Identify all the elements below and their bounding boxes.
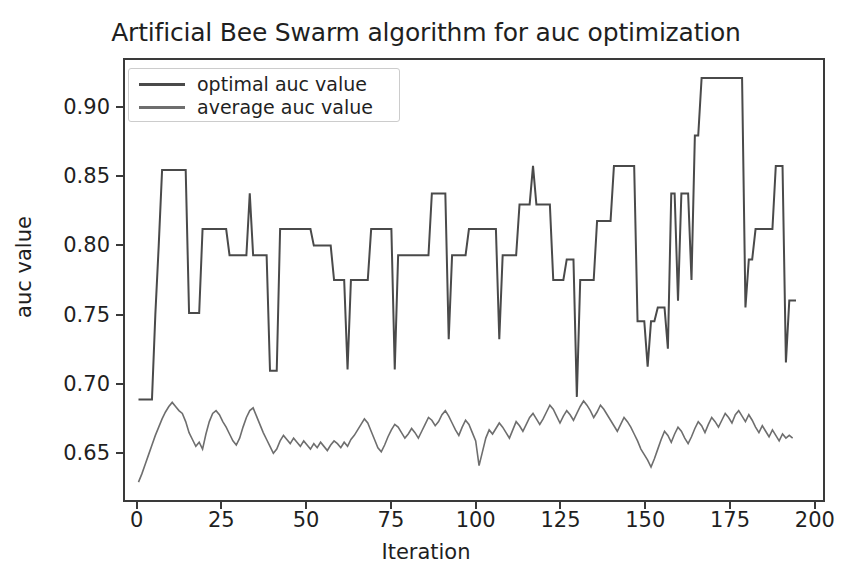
x-tick-label: 50 xyxy=(293,508,320,532)
y-tick-label: 0.70 xyxy=(63,372,110,396)
x-tick-label: 100 xyxy=(456,508,496,532)
legend-item-optimal: optimal auc value xyxy=(139,73,391,96)
x-tick-mark xyxy=(559,501,561,509)
x-tick-mark xyxy=(136,501,138,509)
y-tick-label: 0.85 xyxy=(63,164,110,188)
x-tick-label: 200 xyxy=(795,508,835,532)
chart-legend: optimal auc value average auc value xyxy=(128,68,400,122)
x-tick-mark xyxy=(220,501,222,509)
legend-swatch-average xyxy=(139,106,185,109)
y-tick-label: 0.65 xyxy=(63,441,110,465)
x-axis-label: Iteration xyxy=(0,540,852,564)
legend-item-average: average auc value xyxy=(139,96,391,119)
x-tick-mark xyxy=(390,501,392,509)
x-tick-label: 150 xyxy=(625,508,665,532)
chart-title: Artificial Bee Swarm algorithm for auc o… xyxy=(0,18,852,47)
chart-figure: Artificial Bee Swarm algorithm for auc o… xyxy=(0,0,852,585)
legend-label-optimal: optimal auc value xyxy=(197,74,367,95)
y-axis-tick-labels: 0.650.700.750.800.850.90 xyxy=(0,0,110,585)
series-line xyxy=(138,78,796,400)
x-tick-label: 175 xyxy=(710,508,750,532)
y-tick-label: 0.80 xyxy=(63,233,110,257)
series-line xyxy=(138,401,792,482)
x-tick-mark xyxy=(475,501,477,509)
legend-swatch-optimal xyxy=(139,83,185,86)
x-tick-mark xyxy=(644,501,646,509)
y-tick-label: 0.90 xyxy=(63,95,110,119)
x-tick-label: 75 xyxy=(378,508,405,532)
y-tick-label: 0.75 xyxy=(63,303,110,327)
x-tick-mark xyxy=(729,501,731,509)
plot-area xyxy=(123,58,825,502)
plot-lines xyxy=(125,60,823,500)
x-tick-mark xyxy=(305,501,307,509)
x-tick-label: 0 xyxy=(130,508,143,532)
x-tick-mark xyxy=(814,501,816,509)
x-tick-label: 25 xyxy=(208,508,235,532)
legend-label-average: average auc value xyxy=(197,97,373,118)
x-tick-label: 125 xyxy=(540,508,580,532)
